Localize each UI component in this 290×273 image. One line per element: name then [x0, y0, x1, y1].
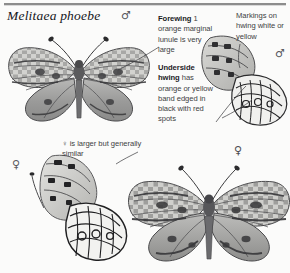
figure-female-upperside [128, 155, 290, 273]
male-symbol-underside: ♂ [275, 48, 285, 59]
female-symbol-upperside: ♀ [234, 145, 242, 156]
annotation-forewing-lead: Forewing [158, 14, 191, 23]
annotation-female-note-body: ♀ is larger but generally similar [62, 139, 141, 158]
field-guide-plate: Melitaea phoebe [0, 0, 290, 273]
male-symbol-upperside: ♂ [121, 10, 131, 21]
figure-female-underside [24, 150, 134, 268]
annotation-forewing: Forewing 1 orange marginal lunule is ver… [158, 14, 216, 55]
annotation-female-note: ♀ is larger but generally similar [62, 139, 144, 160]
figure-male-upperside [4, 22, 152, 134]
annotation-markings: Markings on hwing white or yellow [236, 11, 290, 42]
annotation-underside: Underside hwing has orange or yellow ban… [158, 63, 213, 125]
header-rule-shadow [4, 5, 286, 6]
annotation-markings-body: Markings on hwing white or yellow [236, 11, 284, 41]
female-symbol-underside: ♀ [12, 159, 20, 170]
